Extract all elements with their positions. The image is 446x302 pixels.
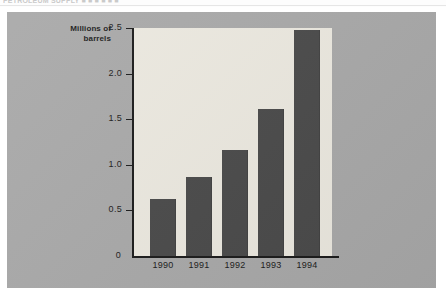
bar-1992 xyxy=(222,150,248,256)
x-axis-label-1993: 1993 xyxy=(252,260,290,270)
y-tick-2.5: 2.5 xyxy=(126,28,134,29)
y-tick-label: 0 xyxy=(116,250,121,260)
y-tick-label: 2.5 xyxy=(109,22,122,32)
bar-1991 xyxy=(186,177,212,256)
y-tick-label: 0.5 xyxy=(109,204,122,214)
y-axis-line xyxy=(132,28,134,258)
x-axis-label-1994: 1994 xyxy=(288,260,326,270)
y-tick-label: 2.0 xyxy=(109,68,122,78)
y-tick-0: 0 xyxy=(126,256,134,257)
x-axis-label-1991: 1991 xyxy=(180,260,218,270)
bar-1993 xyxy=(258,109,284,256)
cut-off-header-text: PETROLEUM SUPPLY ■ ■ ■ ■ ■ ■ xyxy=(3,0,119,4)
header-rule xyxy=(0,5,446,6)
y-tick-2.0: 2.0 xyxy=(126,74,134,75)
x-axis-label-1990: 1990 xyxy=(144,260,182,270)
y-axis-title-line-1: Millions of xyxy=(43,24,111,34)
y-tick-1.5: 1.5 xyxy=(126,119,134,120)
y-axis-title-line-2: barrels xyxy=(43,34,111,44)
y-tick-1.0: 1.0 xyxy=(126,165,134,166)
figure-panel: Millions of barrels 00.51.01.52.02.5 199… xyxy=(7,12,436,288)
x-axis-line xyxy=(132,256,339,258)
y-axis-title: Millions of barrels xyxy=(43,24,111,43)
x-axis-label-1992: 1992 xyxy=(216,260,254,270)
bar-1990 xyxy=(150,199,176,256)
y-tick-label: 1.5 xyxy=(109,113,122,123)
y-tick-label: 1.0 xyxy=(109,159,122,169)
y-tick-0.5: 0.5 xyxy=(126,210,134,211)
page-top-text-strip: PETROLEUM SUPPLY ■ ■ ■ ■ ■ ■ xyxy=(0,0,446,7)
bar-1994 xyxy=(294,30,320,256)
